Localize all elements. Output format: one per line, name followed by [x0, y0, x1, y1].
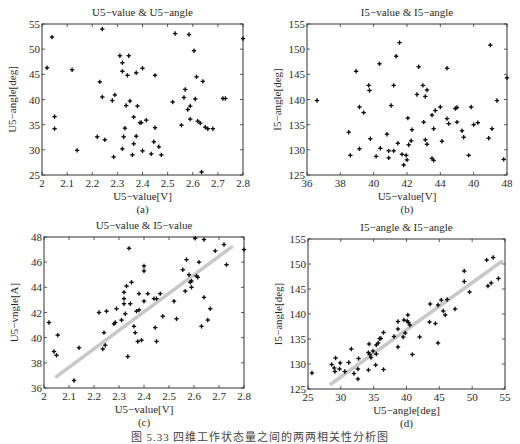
x-tick-label: 2.7	[211, 177, 225, 189]
y-tick-label: 130	[289, 144, 306, 156]
x-tick-label: 30	[335, 391, 347, 403]
y-tick-label: 135	[290, 333, 307, 345]
y-axis-label: I5−angle[deg]	[272, 283, 284, 345]
panel-label: (a)	[136, 203, 149, 216]
panel-label: (b)	[401, 203, 414, 216]
x-tick-label: 2.2	[85, 177, 99, 189]
y-tick-label: 130	[290, 358, 307, 370]
x-tick-label: 44	[435, 177, 447, 189]
y-tick-label: 44	[31, 281, 43, 293]
y-tick-label: 46	[31, 256, 43, 268]
figure-caption: 图 5.33 四维工作状态量之间的两两相关性分析图	[0, 428, 520, 444]
y-tick-label: 48	[31, 231, 43, 243]
y-tick-label: 125	[289, 169, 306, 181]
chart-title: I5−value & I5−angle	[361, 6, 454, 18]
y-tick-label: 40	[31, 332, 43, 344]
y-tick-label: 38	[31, 357, 43, 369]
x-tick-label: 40	[368, 177, 380, 189]
x-tick-label: 2.1	[60, 177, 74, 189]
y-tick-label: 145	[289, 68, 306, 80]
x-axis-label: U5−value[V]	[378, 190, 437, 202]
x-tick-label: 2.4	[136, 177, 150, 189]
y-tick-label: 30	[29, 144, 41, 156]
x-tick-label: 42	[402, 177, 413, 189]
y-tick-label: 155	[290, 233, 307, 245]
x-tick-label: 2.4	[137, 390, 151, 402]
y-tick-label: 155	[289, 18, 306, 30]
y-tick-label: 150	[289, 43, 306, 55]
x-tick-label: 38	[335, 177, 347, 189]
y-tick-label: 35	[29, 119, 41, 131]
x-tick-label: 2.1	[62, 390, 76, 402]
y-axis-label: U5−vngle[A]	[8, 283, 20, 342]
x-tick-label: 2.3	[112, 390, 126, 402]
y-tick-label: 25	[29, 169, 41, 181]
y-axis-label: I5−angle[deg]	[271, 68, 283, 130]
axes-box	[308, 239, 505, 389]
x-tick-label: 2.7	[212, 390, 226, 402]
x-tick-label: 2.6	[186, 177, 200, 189]
x-tick-label: 50	[467, 391, 479, 403]
y-tick-label: 55	[29, 18, 41, 30]
x-tick-label: 40	[401, 391, 413, 403]
chart-title: U5−value & I5−value	[96, 219, 193, 231]
x-tick-label: 2	[39, 177, 45, 189]
y-tick-label: 40	[29, 94, 41, 106]
x-tick-label: 40	[468, 177, 480, 189]
x-tick-label: 2	[41, 390, 47, 402]
y-tick-label: 135	[289, 119, 306, 131]
y-tick-label: 140	[289, 94, 306, 106]
y-tick-label: 125	[290, 383, 307, 395]
scatter-panel-a: U5−value & U5−angle22.12.22.32.42.52.62.…	[6, 6, 250, 216]
chart-title: I5−angle & I5−angle	[360, 221, 453, 233]
y-tick-label: 42	[31, 307, 42, 319]
x-tick-label: 55	[500, 391, 512, 403]
chart-title: U5−value & U5−angle	[92, 6, 193, 18]
x-tick-label: 2.3	[111, 177, 125, 189]
axes-box	[307, 24, 507, 175]
x-axis-label: U5−value[V]	[115, 403, 174, 415]
y-tick-label: 36	[31, 382, 43, 394]
scatter-panel-b: I5−value & I5−angle363840424440481251301…	[271, 6, 513, 216]
y-tick-label: 50	[29, 43, 41, 55]
x-tick-label: 2.5	[161, 177, 175, 189]
y-tick-label: 45	[29, 68, 41, 80]
x-tick-label: 2.6	[187, 390, 201, 402]
x-tick-label: 45	[434, 391, 446, 403]
scatter-panel-c: U5−value & I5−value22.12.22.32.42.52.62.…	[8, 219, 251, 429]
y-tick-label: 145	[290, 283, 307, 295]
x-tick-label: 2.5	[162, 390, 176, 402]
x-tick-label: 48	[502, 177, 514, 189]
y-axis-label: U5−angle[deg]	[6, 66, 18, 133]
y-tick-label: 140	[290, 308, 307, 320]
x-axis-label: U5−value[V]	[113, 190, 172, 202]
x-axis-label: U5−angle[deg]	[373, 404, 440, 416]
y-tick-label: 150	[290, 258, 307, 270]
x-tick-label: 2.2	[87, 390, 101, 402]
x-tick-label: 35	[368, 391, 380, 403]
x-tick-label: 2.8	[236, 177, 250, 189]
x-tick-label: 2.8	[237, 390, 251, 402]
scatter-panel-d: I5−angle & I5−angle253035404550551251301…	[272, 221, 511, 430]
